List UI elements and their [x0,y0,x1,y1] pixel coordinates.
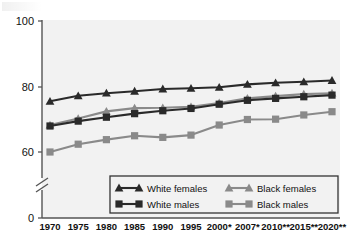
life-expectancy-line-chart: 100 80 60 0 1970197519801985199019952000… [0,0,350,241]
x-tick-label-1980: 1980 [96,221,117,232]
x-tick-label-1985: 1985 [124,221,146,232]
data-point-square-marker [245,200,252,207]
x-tick-label-1970: 1970 [39,221,60,232]
data-point-square-marker [272,116,279,123]
data-point-square-marker [131,132,138,139]
x-tick-label-2020ss: 2020** [318,221,347,232]
data-point-square-marker [216,121,223,128]
legend-label: White males [147,199,200,210]
data-point-square-marker [75,141,82,148]
chart-canvas: 100 80 60 0 1970197519801985199019952000… [0,0,350,241]
y-tick-label-60: 60 [22,146,34,158]
data-point-square-marker [115,200,122,207]
data-point-square-marker [75,118,82,125]
legend-label: White females [147,183,207,194]
data-point-square-marker [103,114,110,121]
x-tick-label-2015ss: 2015** [290,221,319,232]
legend-label: Black females [257,183,316,194]
data-point-square-marker [225,200,232,207]
data-point-square-marker [187,132,194,139]
x-tick-label-2010ss: 2010** [261,221,290,232]
data-point-square-marker [244,116,251,123]
data-point-square-marker [328,92,335,99]
chart-legend: White femalesBlack femalesWhite malesBla… [110,176,338,213]
data-point-square-marker [328,108,335,115]
x-tick-label-2000s: 2000* [207,221,232,232]
data-point-square-marker [216,101,223,108]
data-point-square-marker [272,95,279,102]
x-tick-label-2007s: 2007* [235,221,260,232]
legend-label: Black males [257,199,308,210]
data-point-square-marker [159,107,166,114]
data-point-square-marker [187,105,194,112]
x-tick-label-1990: 1990 [152,221,173,232]
y-tick-label-0: 0 [28,212,34,224]
x-axis-tick-labels: 1970197519801985199019952000*2007*2010**… [39,221,346,232]
y-tick-label-100: 100 [16,15,34,27]
data-point-square-marker [159,134,166,141]
data-point-square-marker [244,97,251,104]
data-point-square-marker [103,136,110,143]
x-tick-label-1995: 1995 [180,221,202,232]
data-point-square-marker [46,148,53,155]
y-tick-label-80: 80 [22,81,34,93]
data-point-square-marker [300,93,307,100]
data-point-square-marker [135,200,142,207]
data-point-square-marker [300,111,307,118]
data-point-square-marker [46,122,53,129]
x-tick-label-1975: 1975 [68,221,90,232]
data-point-square-marker [131,110,138,117]
